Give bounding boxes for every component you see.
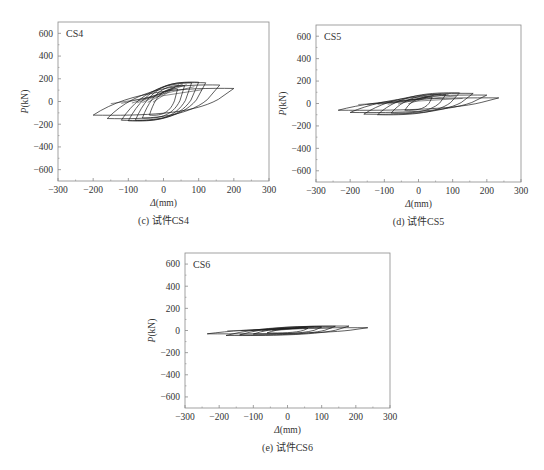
y-tick-label: 400 xyxy=(166,282,181,292)
x-tick-label: 0 xyxy=(161,185,166,195)
x-tick-label: −200 xyxy=(83,185,103,195)
x-tick-label: 200 xyxy=(480,186,495,196)
y-tick-label: 200 xyxy=(297,76,312,86)
panel-label: CS6 xyxy=(193,259,210,270)
x-tick-label: −300 xyxy=(306,186,326,196)
hysteresis-curves xyxy=(338,93,499,115)
x-tick-label: 300 xyxy=(383,412,398,422)
hysteresis-curves xyxy=(93,82,234,121)
x-tick-label: 100 xyxy=(192,185,207,195)
y-tick-label: 0 xyxy=(48,97,53,107)
y-axis-label: P(kN) xyxy=(20,90,31,115)
x-tick-label: 0 xyxy=(285,412,290,422)
y-tick-label: −600 xyxy=(33,165,53,175)
plot-frame xyxy=(316,25,521,182)
y-tick-label: 0 xyxy=(175,326,180,336)
x-tick-label: 100 xyxy=(315,412,330,422)
y-tick-label: −200 xyxy=(160,348,180,358)
y-tick-label: 200 xyxy=(166,304,181,314)
y-axis-label: P(kN) xyxy=(278,92,289,117)
x-tick-label: −200 xyxy=(209,412,229,422)
y-tick-label: 0 xyxy=(306,99,311,109)
y-tick-label: −200 xyxy=(33,120,53,130)
y-tick-label: −400 xyxy=(291,144,311,154)
y-tick-label: −600 xyxy=(291,166,311,176)
caption-cs5: (d) 试件CS5 xyxy=(316,213,521,228)
x-tick-label: −100 xyxy=(244,412,264,422)
y-tick-label: −400 xyxy=(160,370,180,380)
y-tick-label: −200 xyxy=(291,121,311,131)
x-tick-label: −300 xyxy=(48,185,68,195)
x-tick-label: −200 xyxy=(340,186,360,196)
y-axis-label: P(kN) xyxy=(147,319,158,344)
y-tick-label: −400 xyxy=(33,142,53,152)
panel-label: CS4 xyxy=(66,28,83,39)
x-tick-label: 100 xyxy=(446,186,461,196)
caption-cs6: (e) 试件CS6 xyxy=(185,439,390,454)
plot-frame xyxy=(58,22,269,181)
x-tick-label: 200 xyxy=(227,185,242,195)
y-tick-label: 200 xyxy=(39,74,54,84)
x-tick-label: −300 xyxy=(175,412,195,422)
x-axis-label: Δ(mm) xyxy=(404,199,432,210)
y-tick-label: 600 xyxy=(297,32,312,42)
hysteresis-curves xyxy=(207,326,368,335)
y-tick-label: −600 xyxy=(160,392,180,402)
x-axis-label: Δ(mm) xyxy=(273,425,301,436)
chart-panel-cs4: −300−200−10001002003006004002000−200−400… xyxy=(16,18,277,231)
chart-panel-cs5: −300−200−10001002003006004002000−200−400… xyxy=(274,21,529,232)
y-tick-label: 400 xyxy=(297,54,312,64)
chart-panel-cs6: −300−200−10001002003006004002000−200−400… xyxy=(143,249,398,458)
y-tick-label: 400 xyxy=(39,51,54,61)
y-tick-label: 600 xyxy=(166,259,181,269)
x-tick-label: 200 xyxy=(349,412,364,422)
x-tick-label: −100 xyxy=(119,185,139,195)
panel-label: CS5 xyxy=(324,31,341,42)
plot-frame xyxy=(185,253,390,408)
y-tick-label: 600 xyxy=(39,29,54,39)
x-tick-label: −100 xyxy=(375,186,395,196)
x-axis-label: Δ(mm) xyxy=(149,198,177,209)
x-tick-label: 0 xyxy=(416,186,421,196)
x-tick-label: 300 xyxy=(514,186,529,196)
caption-cs4: (c) 试件CS4 xyxy=(58,212,269,227)
